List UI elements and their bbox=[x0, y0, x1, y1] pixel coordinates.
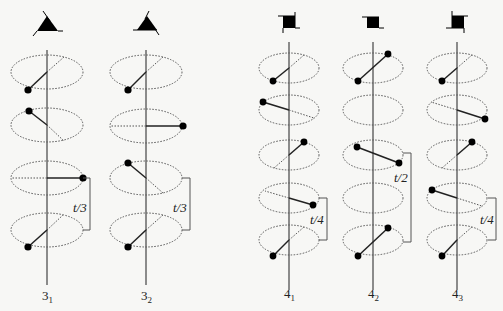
atom-dot bbox=[124, 159, 131, 166]
threefold-screw-triangle-icon bbox=[33, 11, 63, 36]
atom-dot bbox=[260, 99, 267, 106]
atom-dot bbox=[124, 243, 131, 250]
fourfold-screw-square-icon bbox=[278, 12, 300, 33]
column-3-2: t/3 32 bbox=[110, 11, 190, 305]
bracket-label: t/4 bbox=[480, 212, 494, 227]
atom-dot bbox=[354, 144, 361, 151]
column-4-3: t/4 43 bbox=[427, 11, 496, 303]
atom-dot bbox=[355, 78, 362, 85]
column-label: 41 bbox=[284, 286, 295, 303]
bracket-label: t/3 bbox=[173, 200, 187, 215]
fourfold-screw-square-icon bbox=[446, 11, 468, 33]
atom-dot bbox=[25, 107, 32, 114]
atom-dot bbox=[429, 187, 436, 194]
threefold-screw-triangle-icon bbox=[133, 11, 159, 35]
atom-dot bbox=[355, 253, 362, 260]
screw-axis-diagram: t/3 31 t/3 32 bbox=[0, 0, 503, 311]
atom-dot bbox=[179, 122, 186, 129]
bracket-label: t/3 bbox=[73, 200, 87, 215]
atom-dot bbox=[270, 78, 277, 85]
atom-dot bbox=[24, 243, 31, 250]
atom-dot bbox=[482, 116, 489, 123]
atom-dot bbox=[439, 253, 446, 260]
column-label: 32 bbox=[141, 288, 152, 305]
fourfold-screw-square-icon bbox=[362, 17, 384, 28]
atom-dot bbox=[385, 225, 392, 232]
atom-dot bbox=[24, 86, 31, 93]
column-4-2: t/2 42 bbox=[343, 17, 411, 303]
column-label: 42 bbox=[368, 286, 379, 303]
atom-dot bbox=[385, 51, 392, 58]
column-3-1: t/3 31 bbox=[11, 11, 90, 305]
column-label: 31 bbox=[42, 288, 53, 305]
atom-dot bbox=[469, 139, 476, 146]
atom-dot bbox=[270, 253, 277, 260]
atom-dot bbox=[396, 160, 403, 167]
column-4-1: t/4 41 bbox=[259, 12, 327, 303]
translation-bracket bbox=[403, 153, 411, 242]
column-label: 43 bbox=[452, 286, 464, 303]
atom-dot bbox=[301, 139, 308, 146]
bracket-label: t/4 bbox=[310, 212, 324, 227]
atom-dot bbox=[124, 86, 131, 93]
atom-dot bbox=[439, 78, 446, 85]
atom-dot bbox=[310, 202, 317, 209]
bracket-label: t/2 bbox=[394, 170, 408, 185]
